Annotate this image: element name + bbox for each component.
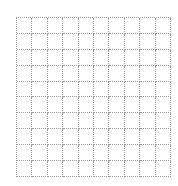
dotted-grid xyxy=(16,17,171,177)
grid-cell xyxy=(32,34,47,50)
grid-cell xyxy=(17,50,32,66)
grid-cell xyxy=(48,161,63,177)
grid-cell xyxy=(63,66,78,82)
grid-cell xyxy=(48,129,63,145)
grid-cell xyxy=(125,145,140,161)
grid-cell xyxy=(63,113,78,129)
grid-cell xyxy=(32,18,47,34)
grid-cell xyxy=(94,18,109,34)
grid-cell xyxy=(109,97,124,113)
grid-cell xyxy=(125,161,140,177)
grid-cell xyxy=(94,113,109,129)
grid-cell xyxy=(63,34,78,50)
grid-cell xyxy=(140,129,155,145)
canvas xyxy=(0,0,178,186)
grid-cell xyxy=(79,34,94,50)
grid-cell xyxy=(125,34,140,50)
grid-cell xyxy=(63,97,78,113)
grid-cell xyxy=(79,97,94,113)
grid-cell xyxy=(48,18,63,34)
grid-cell xyxy=(109,34,124,50)
grid-cell xyxy=(140,97,155,113)
grid-cell xyxy=(63,161,78,177)
grid-cell xyxy=(63,50,78,66)
grid-cell xyxy=(79,82,94,98)
grid-cell xyxy=(79,145,94,161)
grid-cell xyxy=(79,161,94,177)
grid-cell xyxy=(125,82,140,98)
grid-cell xyxy=(63,18,78,34)
grid-cell xyxy=(17,97,32,113)
grid-cell xyxy=(32,145,47,161)
grid-cell xyxy=(94,66,109,82)
grid-cell xyxy=(156,97,171,113)
grid-cell xyxy=(140,50,155,66)
grid-cell xyxy=(156,50,171,66)
grid-cell xyxy=(79,50,94,66)
grid-cell xyxy=(17,129,32,145)
grid-cell xyxy=(17,113,32,129)
grid-cell xyxy=(79,113,94,129)
grid-cell xyxy=(94,145,109,161)
grid-cell xyxy=(32,66,47,82)
grid-cell xyxy=(156,18,171,34)
grid-cell xyxy=(156,161,171,177)
grid-cell xyxy=(79,66,94,82)
grid-cell xyxy=(140,145,155,161)
grid-cell xyxy=(140,34,155,50)
grid-cell xyxy=(17,82,32,98)
grid-cell xyxy=(79,129,94,145)
grid-cell xyxy=(94,82,109,98)
grid-cell xyxy=(32,97,47,113)
grid-cell xyxy=(63,145,78,161)
grid-cell xyxy=(17,66,32,82)
grid-cell xyxy=(32,129,47,145)
grid-cell xyxy=(109,66,124,82)
grid-cell xyxy=(94,34,109,50)
grid-cell xyxy=(48,66,63,82)
grid-cell xyxy=(109,82,124,98)
grid-cell xyxy=(63,129,78,145)
grid-cell xyxy=(17,34,32,50)
grid-cell xyxy=(156,34,171,50)
grid-cell xyxy=(140,18,155,34)
grid-cell xyxy=(109,161,124,177)
grid-cell xyxy=(79,18,94,34)
grid-cell xyxy=(109,113,124,129)
grid-cell xyxy=(156,113,171,129)
grid-cell xyxy=(94,50,109,66)
grid-cell xyxy=(17,145,32,161)
grid-cell xyxy=(94,97,109,113)
grid-cell xyxy=(17,161,32,177)
grid-cell xyxy=(32,161,47,177)
grid-cell xyxy=(109,18,124,34)
grid-cell xyxy=(156,82,171,98)
grid-cell xyxy=(94,161,109,177)
grid-cell xyxy=(48,34,63,50)
grid-cell xyxy=(140,66,155,82)
grid-cell xyxy=(109,129,124,145)
grid-cell xyxy=(109,50,124,66)
grid-cell xyxy=(48,50,63,66)
grid-cell xyxy=(17,18,32,34)
grid-cell xyxy=(32,113,47,129)
grid-cell xyxy=(156,145,171,161)
grid-cell xyxy=(63,82,78,98)
grid-cell xyxy=(156,66,171,82)
grid-cell xyxy=(32,82,47,98)
grid-cell xyxy=(125,97,140,113)
grid-cell xyxy=(156,129,171,145)
grid-cell xyxy=(140,82,155,98)
grid-cell xyxy=(125,113,140,129)
grid-cell xyxy=(125,18,140,34)
grid-cell xyxy=(140,113,155,129)
grid-cell xyxy=(109,145,124,161)
grid-cell xyxy=(48,82,63,98)
grid-cell xyxy=(94,129,109,145)
grid-cell xyxy=(125,66,140,82)
grid-cell xyxy=(48,113,63,129)
grid-cell xyxy=(125,50,140,66)
grid-cell xyxy=(48,97,63,113)
grid-cell xyxy=(48,145,63,161)
grid-cell xyxy=(125,129,140,145)
